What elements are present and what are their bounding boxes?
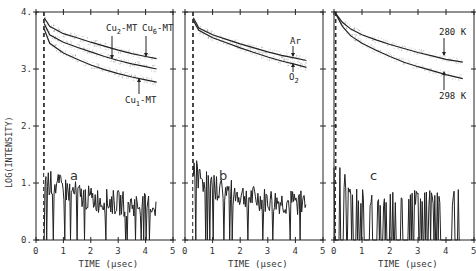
figure: LOG(INTENSITY) 0. 1. 2. 3. 4. 012345TIME… [0, 0, 476, 271]
data-points [44, 21, 156, 72]
label-280k: 280 K [439, 27, 467, 37]
panel-b: 012345TIME (μsec) [182, 9, 326, 269]
label-o2: O2 [289, 72, 299, 85]
x-tick-label: 1 [60, 246, 65, 256]
x-tick-label: 2 [387, 246, 392, 256]
panel-letter-a: a [70, 168, 78, 183]
x-tick-label: 1 [359, 246, 364, 256]
panel-c: 012345TIME (μsec) [331, 9, 476, 269]
x-axis-label: TIME (μsec) [378, 259, 438, 269]
panel-a: 012345TIME (μsec) [33, 9, 176, 269]
y-tick-0: 0. [21, 235, 32, 245]
y-tick-3: 3. [21, 64, 32, 74]
annotations-panel-c: 280 K 298 K [439, 27, 467, 101]
background-trace [44, 171, 156, 240]
data-points [336, 12, 462, 64]
label-cu1-mt: Cu1-MT [125, 95, 157, 108]
label-cu6-mt: Cu6-MT [142, 23, 174, 36]
background-trace [193, 161, 306, 240]
fit-curve-cu2-mt [44, 23, 156, 69]
y-tick-2: 2. [21, 121, 32, 131]
annotations-panel-b: Ar O2 [289, 36, 301, 85]
label-298k: 298 K [439, 91, 467, 101]
x-tick-label: 2 [88, 246, 93, 256]
x-tick-label: 3 [415, 246, 420, 256]
chart-svg: LOG(INTENSITY) 0. 1. 2. 3. 4. 012345TIME… [0, 0, 476, 271]
x-tick-label: 4 [143, 246, 148, 256]
x-tick-label: 5 [170, 246, 175, 256]
x-tick-label: 2 [237, 246, 242, 256]
data-points [337, 16, 462, 80]
x-tick-label: 5 [471, 246, 476, 256]
x-tick-label: 3 [265, 246, 270, 256]
x-tick-label: 5 [320, 246, 325, 256]
y-axis-label: LOG(INTENSITY) [4, 116, 14, 188]
x-tick-label: 3 [115, 246, 120, 256]
background-trace [334, 168, 460, 240]
panel-letter-c: c [370, 168, 377, 183]
x-tick-label: 4 [443, 246, 448, 256]
y-tick-labels: 0. 1. 2. 3. 4. [21, 7, 32, 245]
panel-letter-b: b [219, 168, 227, 183]
x-tick-label: 4 [292, 246, 297, 256]
label-ar: Ar [290, 36, 301, 46]
x-axis-label: TIME (μsec) [228, 259, 288, 269]
x-tick-label: 0 [331, 246, 336, 256]
data-points [45, 17, 154, 59]
x-tick-label: 1 [210, 246, 215, 256]
x-tick-label: 0 [182, 246, 187, 256]
panels: 012345TIME (μsec)012345TIME (μsec)012345… [33, 9, 476, 269]
plot-frame [334, 12, 474, 240]
label-cu2-mt: Cu2-MT [106, 23, 138, 36]
y-tick-4: 4. [21, 7, 32, 17]
x-tick-label: 0 [33, 246, 38, 256]
y-tick-1: 1. [21, 178, 32, 188]
x-axis-label: TIME (μsec) [79, 259, 139, 269]
